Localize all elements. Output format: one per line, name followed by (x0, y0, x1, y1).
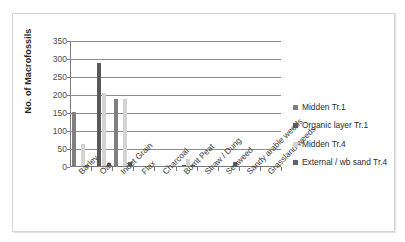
legend-item[interactable]: Midden Tr.1 (293, 102, 405, 112)
y-tick-mark (67, 77, 70, 78)
bar (102, 93, 106, 166)
y-tick-label: 100 (41, 127, 67, 135)
legend-item[interactable]: Midden Tr.4 (293, 139, 405, 149)
y-tick-label: 300 (41, 55, 67, 63)
y-tick-label: 200 (41, 91, 67, 99)
bar-group (156, 40, 174, 166)
bar (72, 112, 76, 166)
y-tick-label: 250 (41, 73, 67, 81)
y-tick-mark (67, 59, 70, 60)
bar-group (72, 40, 90, 166)
legend-label: Organic layer Tr.1 (302, 121, 368, 130)
legend-item[interactable]: External / wb sand Tr.4 (293, 158, 405, 168)
legend-label: External / wb sand Tr.4 (302, 158, 387, 167)
y-tick-mark (67, 149, 70, 150)
legend-swatch-icon (293, 123, 298, 128)
chart-legend: Midden Tr.1Organic layer Tr.1Midden Tr.4… (293, 102, 405, 176)
y-tick-label: 350 (41, 37, 67, 45)
bar (123, 99, 127, 166)
x-axis-category-labels: BarleyOatIndet GrainFlaxCharcoalBurnt Pe… (70, 168, 350, 240)
legend-swatch-icon (293, 142, 298, 147)
y-tick-mark (67, 41, 70, 42)
bar (114, 99, 118, 166)
bar (97, 63, 101, 166)
y-tick-mark (67, 131, 70, 132)
legend-label: Midden Tr.1 (302, 103, 346, 112)
y-axis-tick-labels: 050100150200250300350 (40, 41, 67, 167)
y-tick-mark (67, 95, 70, 96)
bar-group (114, 40, 132, 166)
legend-label: Midden Tr.4 (302, 140, 346, 149)
legend-item[interactable]: Organic layer Tr.1 (293, 121, 405, 131)
legend-swatch-icon (293, 160, 298, 165)
legend-swatch-icon (293, 105, 298, 110)
y-axis-title: No. of Macrofossils (23, 7, 33, 135)
y-tick-label: 50 (41, 145, 67, 153)
y-tick-mark (67, 113, 70, 114)
y-tick-label: 150 (41, 109, 67, 117)
bar-group (93, 40, 111, 166)
y-tick-label: 0 (41, 163, 67, 171)
chart-frame: No. of Macrofossils 05010015020025030035… (12, 13, 395, 232)
